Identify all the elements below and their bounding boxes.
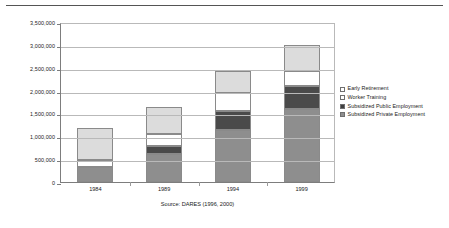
page-top-rule [6,5,443,6]
source-caption: Source: DARES (1996, 2000) [60,202,335,208]
legend-swatch-icon [340,87,345,92]
bar-segment[interactable] [284,86,320,109]
x-axis-label-1999: 1999 [295,187,307,193]
y-axis-tick-label: 2,500,000 [30,67,55,72]
bar-segment[interactable] [146,134,182,146]
y-axis-tick [57,24,61,25]
bar-1984[interactable] [77,128,113,182]
bar-segment[interactable] [146,146,182,154]
bar-1989[interactable] [146,107,182,182]
chart-page: 0500,0001,000,0001,500,0002,000,0002,500… [0,0,449,228]
gridline [61,138,334,139]
bar-segment[interactable] [77,128,113,160]
y-axis-tick [57,138,61,139]
bar-segment[interactable] [215,93,251,111]
gridline [61,161,334,162]
y-axis-tick-label: 0 [52,181,55,186]
legend-swatch-icon [340,104,345,109]
y-axis-tick [57,161,61,162]
bar-segment[interactable] [284,109,320,182]
legend-item-label: Subsidized Public Employment [348,104,423,109]
legend-item[interactable]: Subsidized Public Employment [340,102,448,110]
legend-item[interactable]: Subsidized Private Employment [340,111,448,119]
figure: 0500,0001,000,0001,500,0002,000,0002,500… [0,14,449,220]
bar-segment[interactable] [284,71,320,85]
gridline [61,93,334,94]
bar-segment[interactable] [146,107,182,134]
y-axis-tick [57,47,61,48]
legend-swatch-icon [340,112,345,117]
y-axis-tick [57,93,61,94]
x-axis-tick [267,182,268,186]
y-axis-tick [57,115,61,116]
legend-item[interactable]: Worker Training [340,94,448,102]
legend-swatch-icon [340,95,345,100]
y-axis-tick-label: 3,500,000 [30,21,55,26]
legend-item-label: Subsidized Private Employment [348,112,426,117]
x-axis-label-1989: 1989 [158,187,170,193]
gridline [61,115,334,116]
x-axis-tick [130,182,131,186]
y-axis-tick [57,184,61,185]
y-axis-tick-label: 3,000,000 [30,44,55,49]
x-axis-label-1984: 1984 [89,187,101,193]
bar-1994[interactable] [215,71,251,182]
x-axis-tick [199,182,200,186]
legend-item-label: Worker Training [348,95,387,100]
legend-item[interactable]: Early Retirement [340,85,448,93]
y-axis-tick-label: 2,000,000 [30,90,55,95]
x-axis-label-1994: 1994 [227,187,239,193]
plot-area: 0500,0001,000,0001,500,0002,000,0002,500… [60,23,335,183]
y-axis-tick-label: 1,000,000 [30,136,55,141]
bar-segment[interactable] [215,71,251,93]
bar-segment[interactable] [284,45,320,72]
y-axis-tick [57,70,61,71]
gridline [61,70,334,71]
y-axis-tick-label: 500,000 [35,158,55,163]
legend-item-label: Early Retirement [348,86,389,91]
gridline [61,47,334,48]
bar-segment[interactable] [215,111,251,130]
chart-legend: Early RetirementWorker TrainingSubsidize… [340,85,448,119]
bar-segment[interactable] [77,167,113,182]
bar-segment[interactable] [146,154,182,182]
y-axis-tick-label: 1,500,000 [30,113,55,118]
